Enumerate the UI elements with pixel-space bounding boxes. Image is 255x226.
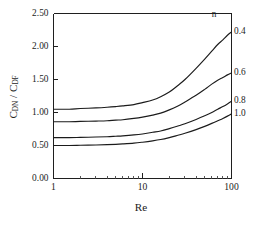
axes-frame bbox=[54, 14, 232, 179]
series-curve-n-0.4 bbox=[54, 32, 232, 109]
y-axis-tick-labels: 0.000.501.001.502.002.50 bbox=[32, 8, 49, 183]
x-tick-label: 1 bbox=[51, 181, 56, 192]
y-axis-ticks bbox=[54, 14, 59, 179]
series-label-0.8: 0.8 bbox=[234, 95, 246, 105]
series-curve-n-0.8 bbox=[54, 101, 232, 137]
y-axis-title-numerator: C bbox=[7, 111, 19, 118]
x-tick-label: 100 bbox=[224, 181, 239, 192]
series-label-1.0: 1.0 bbox=[234, 108, 246, 118]
legend-title-n: n bbox=[212, 9, 217, 19]
series-annotations: n0.40.60.81.0 bbox=[212, 9, 246, 118]
y-tick-label: 0.00 bbox=[32, 173, 49, 183]
y-tick-label: 2.00 bbox=[32, 41, 49, 51]
y-axis-title: CDN / CDF bbox=[7, 75, 20, 118]
x-axis-title: Re bbox=[135, 201, 147, 213]
svg-text:CDN / CDF: CDN / CDF bbox=[7, 75, 20, 118]
chart-figure: 0.000.501.001.502.002.50 110100 n0.40.60… bbox=[0, 0, 255, 226]
chart-svg: 0.000.501.001.502.002.50 110100 n0.40.60… bbox=[0, 0, 255, 226]
series-curve-n-1.0 bbox=[54, 114, 232, 146]
x-axis-tick-labels: 110100 bbox=[51, 181, 239, 192]
y-tick-label: 0.50 bbox=[32, 140, 49, 150]
y-axis-title-slash: / bbox=[7, 92, 19, 101]
series-label-0.6: 0.6 bbox=[234, 67, 246, 77]
y-axis-title-denominator: C bbox=[7, 85, 19, 92]
data-series-group bbox=[54, 32, 232, 146]
y-tick-label: 2.50 bbox=[32, 8, 49, 18]
y-tick-label: 1.00 bbox=[32, 107, 49, 117]
y-tick-label: 1.50 bbox=[32, 74, 49, 84]
y-axis-title-denominator-subscript: DF bbox=[12, 75, 20, 84]
series-label-0.4: 0.4 bbox=[234, 26, 246, 36]
x-tick-label: 10 bbox=[138, 181, 148, 192]
series-curve-n-0.6 bbox=[54, 73, 232, 122]
